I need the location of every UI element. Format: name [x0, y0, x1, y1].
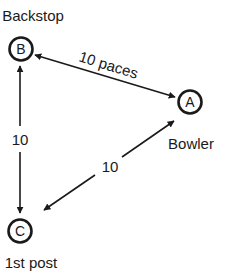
arrow-down-left-icon [44, 175, 95, 210]
edge-label-backstop-firstpost: 10 [12, 131, 29, 148]
node-letter-c: C [15, 223, 25, 239]
node-label-bowler: Bowler [168, 135, 214, 152]
node-label-backstop: Backstop [2, 7, 64, 24]
node-firstpost: C 1st post [5, 220, 58, 272]
edge-backstop-bowler: 10 paces [35, 48, 175, 97]
node-label-firstpost: 1st post [5, 254, 58, 271]
node-bowler: A Bowler [168, 91, 214, 153]
node-backstop: Backstop B [2, 7, 64, 61]
edge-backstop-firstpost: 10 [12, 66, 29, 213]
arrow-up-right-icon [122, 121, 174, 157]
edge-firstpost-bowler: 10 [44, 121, 174, 210]
edge-label-firstpost-bowler: 10 [102, 158, 119, 175]
fielding-triangle-diagram: 10 paces 10 10 Backstop B A Bowler [0, 0, 233, 274]
node-letter-a: A [185, 94, 195, 110]
node-letter-b: B [16, 41, 25, 57]
